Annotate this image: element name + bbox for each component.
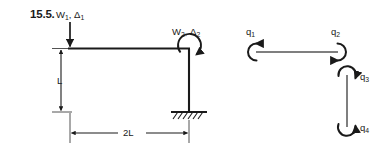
load-w1-delta-sub: 1 (80, 14, 84, 21)
load-label-w2: W2, Δ2 (172, 27, 200, 37)
load-w2-base: W (172, 26, 181, 37)
dof-q2-sub: 2 (336, 31, 340, 38)
load-w1-base: W (56, 9, 65, 20)
problem-number: 15.5. (30, 9, 55, 21)
load-w1-sub: 1 (65, 14, 69, 21)
load-w2-sub: 2 (181, 31, 185, 38)
dof-arrow-q2 (338, 44, 347, 61)
dof-q1-sub: 1 (251, 31, 255, 38)
dimension-label-L: L (57, 76, 62, 86)
load-w2-delta-sub: 2 (196, 31, 200, 38)
dof-q3-sub: 3 (365, 76, 369, 83)
load-label-w1: W1, Δ1 (56, 10, 84, 20)
dof-label-q2: q2 (331, 27, 340, 37)
dimension-label-2L: 2L (123, 128, 134, 138)
dof-q4-sub: 4 (365, 127, 369, 134)
dof-arrow-q1 (248, 44, 257, 61)
dof-label-q4: q4 (360, 123, 369, 133)
figure-container: 15.5. W1, Δ1 W2, Δ2 L 2L q1 q2 q3 q4 (0, 0, 391, 149)
fixed-support (171, 112, 207, 119)
dof-label-q3: q3 (360, 72, 369, 82)
dof-label-q1: q1 (246, 27, 255, 37)
